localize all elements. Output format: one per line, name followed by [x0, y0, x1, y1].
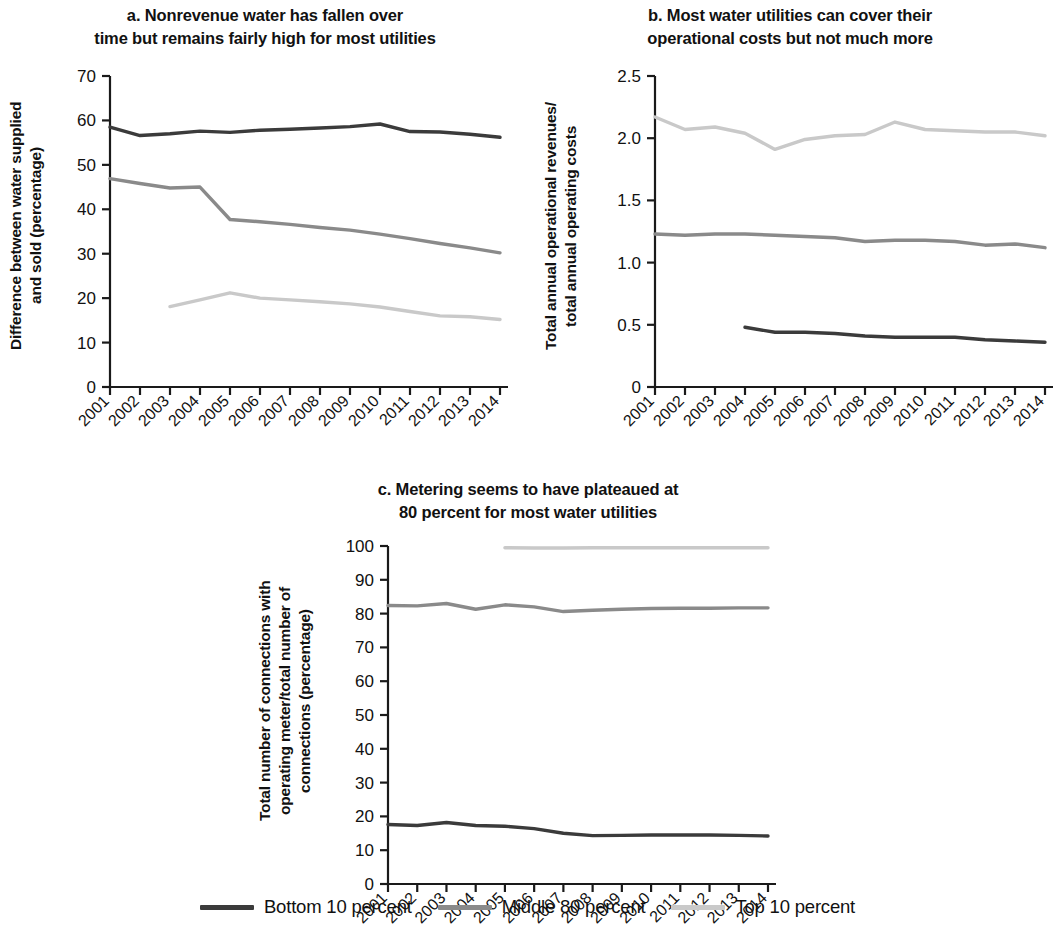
- y-tick-label: 0: [365, 875, 374, 894]
- x-tick-label: 2004: [165, 392, 202, 429]
- y-tick-label: 60: [77, 111, 96, 130]
- series-line: [388, 603, 768, 611]
- x-tick-label: 2002: [105, 392, 142, 429]
- panel-b-plot: Total annual operational revenues/ total…: [525, 62, 1055, 452]
- y-tick-label: 2.0: [617, 129, 641, 148]
- y-tick-label: 1.5: [617, 191, 641, 210]
- series-line: [388, 822, 768, 836]
- x-tick-label: 2013: [435, 392, 472, 429]
- figure-root: a. Nonrevenue water has fallen over time…: [0, 0, 1055, 937]
- y-tick-label: 0: [632, 378, 641, 397]
- y-tick-label: 50: [355, 706, 374, 725]
- x-tick-label: 2009: [860, 392, 897, 429]
- x-tick-label: 2008: [830, 392, 867, 429]
- x-tick-label: 2001: [620, 392, 657, 429]
- x-tick-label: 2008: [285, 392, 322, 429]
- y-tick-label: 60: [355, 672, 374, 691]
- x-tick-label: 2013: [980, 392, 1017, 429]
- legend-label-top10: Top 10 percent: [735, 896, 855, 918]
- legend-label-bottom10: Bottom 10 percent: [264, 896, 412, 918]
- y-tick-label: 90: [355, 570, 374, 589]
- series-line: [110, 178, 500, 252]
- y-tick-label: 0: [87, 378, 96, 397]
- figure-legend: Bottom 10 percentMiddle 80 percentTop 10…: [0, 896, 1055, 918]
- x-tick-label: 2006: [770, 392, 807, 429]
- panel-c: c. Metering seems to have plateaued at 8…: [263, 478, 793, 926]
- x-tick-label: 2010: [890, 392, 927, 429]
- x-tick-label: 2011: [376, 392, 412, 428]
- y-tick-label: 10: [77, 333, 96, 352]
- panel-b: b. Most water utilities can cover their …: [525, 4, 1055, 452]
- x-tick-label: 2007: [800, 392, 837, 429]
- y-tick-label: 40: [355, 739, 374, 758]
- y-tick-label: 20: [77, 289, 96, 308]
- y-tick-label: 100: [346, 537, 374, 556]
- series-line: [655, 117, 1045, 149]
- x-tick-label: 2001: [75, 392, 112, 429]
- legend-item-middle80: Middle 80 percent: [438, 896, 646, 918]
- panel-c-y-axis-title: Total number of connections with operati…: [255, 536, 315, 866]
- y-tick-label: 40: [77, 200, 96, 219]
- y-tick-label: 80: [355, 604, 374, 623]
- panel-b-svg: 00.51.01.52.02.5200120022003200420052006…: [525, 62, 1055, 452]
- panel-a-svg: 0102030405060702001200220032004200520062…: [0, 62, 530, 452]
- panel-c-title: c. Metering seems to have plateaued at 8…: [263, 478, 793, 524]
- legend-swatch-middle80: [438, 905, 492, 910]
- y-tick-label: 70: [355, 638, 374, 657]
- y-tick-label: 70: [77, 67, 96, 86]
- legend-swatch-top10: [671, 905, 725, 910]
- x-tick-label: 2005: [740, 392, 777, 429]
- panel-a-title: a. Nonrevenue water has fallen over time…: [0, 4, 530, 50]
- y-tick-label: 50: [77, 155, 96, 174]
- legend-item-top10: Top 10 percent: [671, 896, 855, 918]
- series-line: [110, 124, 500, 137]
- panel-a: a. Nonrevenue water has fallen over time…: [0, 4, 530, 452]
- x-tick-label: 2003: [135, 392, 172, 429]
- legend-label-middle80: Middle 80 percent: [502, 896, 646, 918]
- x-tick-label: 2012: [405, 392, 442, 429]
- series-line: [170, 292, 500, 319]
- x-tick-label: 2014: [1010, 392, 1047, 429]
- x-tick-label: 2011: [921, 392, 957, 428]
- legend-swatch-bottom10: [200, 905, 254, 910]
- panel-a-y-axis-title: Difference between water supplied and so…: [6, 66, 46, 386]
- panel-b-y-axis-title: Total annual operational revenues/ total…: [541, 66, 581, 386]
- x-tick-label: 2010: [345, 392, 382, 429]
- x-tick-label: 2002: [650, 392, 687, 429]
- panel-a-plot: Difference between water supplied and so…: [0, 62, 530, 452]
- x-tick-label: 2004: [710, 392, 747, 429]
- panel-b-title: b. Most water utilities can cover their …: [525, 4, 1055, 50]
- y-tick-label: 10: [355, 841, 374, 860]
- x-tick-label: 2014: [465, 392, 502, 429]
- panel-c-svg: 0102030405060708090100200120022003200420…: [263, 536, 793, 926]
- series-line: [655, 234, 1045, 248]
- y-tick-label: 1.0: [617, 253, 641, 272]
- x-tick-label: 2006: [225, 392, 262, 429]
- x-tick-label: 2012: [950, 392, 987, 429]
- y-tick-label: 30: [355, 773, 374, 792]
- series-line: [745, 327, 1045, 342]
- x-tick-label: 2007: [255, 392, 292, 429]
- legend-item-bottom10: Bottom 10 percent: [200, 896, 412, 918]
- panel-c-plot: Total number of connections with operati…: [263, 536, 793, 926]
- x-tick-label: 2003: [680, 392, 717, 429]
- y-tick-label: 20: [355, 807, 374, 826]
- y-tick-label: 30: [77, 244, 96, 263]
- y-tick-label: 2.5: [617, 67, 641, 86]
- x-tick-label: 2005: [195, 392, 232, 429]
- x-tick-label: 2009: [315, 392, 352, 429]
- y-tick-label: 0.5: [617, 315, 641, 334]
